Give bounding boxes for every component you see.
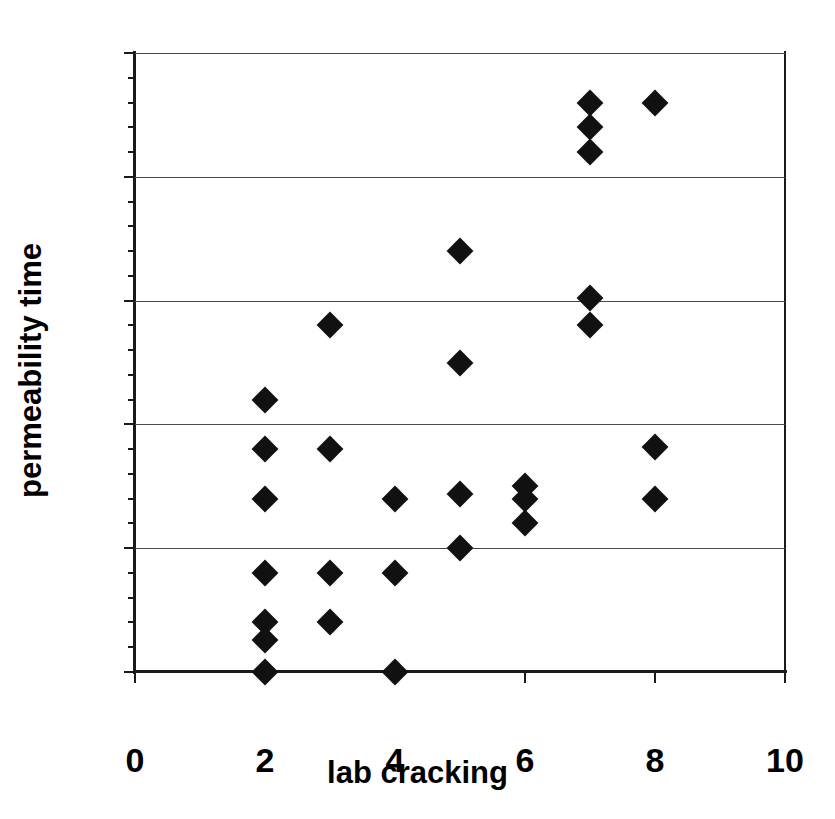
y-axis-minor-tick (128, 151, 135, 153)
y-axis-tick (124, 52, 135, 54)
data-point-marker (252, 386, 279, 413)
y-axis-minor-tick (128, 77, 135, 79)
data-point-marker (382, 560, 409, 587)
y-axis-minor-tick (128, 324, 135, 326)
data-point-marker (577, 312, 604, 339)
y-axis-minor-tick (128, 646, 135, 648)
y-axis-title-wrapper: permeability time (0, 0, 60, 740)
x-axis-tick (524, 672, 526, 683)
data-point-marker (252, 659, 279, 686)
y-axis-minor-tick (128, 498, 135, 500)
data-point-marker (317, 609, 344, 636)
data-point-marker (577, 139, 604, 166)
y-axis-minor-tick (128, 275, 135, 277)
y-axis-minor-tick (128, 225, 135, 227)
y-axis-minor-tick (128, 349, 135, 351)
data-point-marker (317, 560, 344, 587)
data-point-marker (642, 89, 669, 116)
data-point-marker (577, 114, 604, 141)
plot-area: 0246810 0510152025 (135, 53, 785, 672)
data-point-marker (512, 510, 539, 537)
data-point-marker (317, 436, 344, 463)
data-point-marker (252, 560, 279, 587)
y-axis-tick (124, 547, 135, 549)
x-axis-tick (784, 672, 786, 683)
gridline (135, 301, 785, 302)
data-point-marker (382, 485, 409, 512)
y-axis-minor-tick (128, 597, 135, 599)
data-point-marker (382, 659, 409, 686)
gridline (135, 177, 785, 178)
x-axis-title: lab cracking (0, 757, 835, 788)
gridline (135, 53, 785, 54)
y-axis-minor-tick (128, 522, 135, 524)
y-axis-tick (124, 300, 135, 302)
y-axis-minor-tick (128, 374, 135, 376)
gridline (135, 424, 785, 425)
data-point-marker (252, 485, 279, 512)
data-point-marker (577, 89, 604, 116)
y-axis-minor-tick (128, 102, 135, 104)
data-point-marker (447, 349, 474, 376)
data-point-marker (447, 480, 474, 507)
y-axis-minor-tick (128, 399, 135, 401)
y-axis-minor-tick (128, 473, 135, 475)
data-point-marker (642, 433, 669, 460)
data-point-marker (642, 485, 669, 512)
x-axis-tick (654, 672, 656, 683)
y-axis-minor-tick (128, 126, 135, 128)
data-point-marker (447, 238, 474, 265)
y-axis-tick (124, 423, 135, 425)
data-point-marker (577, 285, 604, 312)
y-axis-minor-tick (128, 621, 135, 623)
y-axis-minor-tick (128, 572, 135, 574)
y-axis-tick (124, 176, 135, 178)
scatter-plot-figure: 0246810 0510152025 permeability time lab… (0, 0, 835, 819)
data-point-marker (317, 312, 344, 339)
data-point-marker (447, 535, 474, 562)
y-axis-minor-tick (128, 448, 135, 450)
y-axis-title: permeability time (15, 243, 46, 498)
data-point-marker (252, 436, 279, 463)
x-axis-tick (134, 672, 136, 683)
data-point-marker (252, 626, 279, 653)
y-axis-minor-tick (128, 250, 135, 252)
y-axis-minor-tick (128, 201, 135, 203)
